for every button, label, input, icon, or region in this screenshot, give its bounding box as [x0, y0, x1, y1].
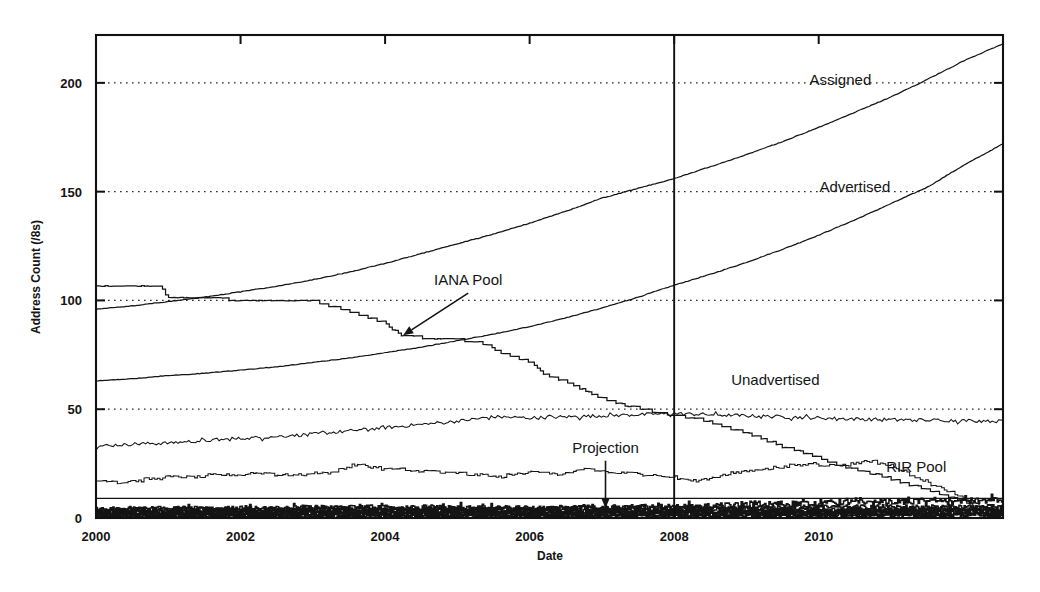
series-label-assigned: Assigned [810, 71, 872, 88]
x-tick-label-2002: 2002 [226, 529, 255, 544]
y-tick-label-200: 200 [60, 76, 82, 91]
series-path-baseline-chatter-5 [96, 505, 1003, 511]
x-tick-label-2010: 2010 [804, 529, 833, 544]
series-label-iana-pool-arrow-shaft [412, 293, 469, 330]
y-tick-label-150: 150 [60, 185, 82, 200]
series-label-rir-pool: RIR Pool [886, 458, 946, 475]
y-tick-label-50: 50 [68, 402, 82, 417]
series-label-iana-pool-arrow-head [403, 326, 414, 335]
x-tick-label-2000: 2000 [82, 529, 111, 544]
series-label-projection: Projection [572, 439, 639, 456]
series-path-iana-pool [96, 286, 1003, 516]
data-series-group [96, 44, 1003, 518]
chart-figure: 200020022004200620082010 050100150200 As… [0, 0, 1040, 592]
series-label-iana-pool: IANA Pool [434, 271, 502, 288]
chart-canvas: 200020022004200620082010 050100150200 As… [0, 0, 1040, 592]
y-tick-label-0: 0 [75, 511, 82, 526]
series-label-advertised: Advertised [819, 178, 890, 195]
x-tick-labels-group: 200020022004200620082010 [82, 529, 834, 544]
x-tick-label-2006: 2006 [515, 529, 544, 544]
gridlines-group [96, 83, 1003, 409]
x-tick-label-2008: 2008 [660, 529, 689, 544]
x-tick-label-2004: 2004 [371, 529, 401, 544]
y-axis-title: Address Count (/8s) [29, 220, 43, 334]
y-tick-label-100: 100 [60, 293, 82, 308]
series-label-unadvertised: Unadvertised [731, 371, 819, 388]
y-tick-labels-group: 050100150200 [60, 76, 82, 526]
series-path-unadvertised [96, 412, 1003, 450]
x-axis-title: Date [537, 549, 563, 563]
